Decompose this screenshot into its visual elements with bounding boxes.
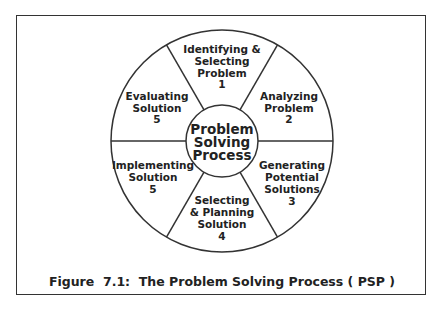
- segment-label-line: Potential: [265, 171, 319, 183]
- segment-number: 2: [285, 113, 292, 125]
- segment-number: 5: [149, 183, 156, 195]
- process-wheel-diagram: Problem Solving Process Identifying & Se…: [0, 0, 444, 313]
- center-label-line: Process: [192, 147, 251, 163]
- segment-label-line: Solution: [128, 171, 177, 183]
- segment-number: 4: [218, 230, 225, 242]
- segment-implementing: Implementing Solution 5: [112, 159, 194, 195]
- figure-caption: Figure 7.1: The Problem Solving Process …: [49, 274, 395, 289]
- segment-generating: Generating Potential Solutions 3: [259, 159, 325, 207]
- segment-identifying: Identifying & Selecting Problem 1: [183, 43, 260, 90]
- segment-label-line: Evaluating: [126, 90, 189, 102]
- segment-label-line: Selecting: [194, 194, 249, 206]
- center-label: Problem Solving Process: [190, 121, 253, 163]
- segment-selecting: Selecting & Planning Solution 4: [190, 194, 255, 242]
- segment-label-line: Generating: [259, 159, 325, 171]
- segment-number: 1: [218, 78, 225, 90]
- segment-label-line: Solutions: [264, 183, 319, 195]
- segment-number: 5: [153, 113, 160, 125]
- segment-label-line: Identifying &: [183, 43, 260, 55]
- segment-label-line: Selecting: [194, 55, 249, 67]
- segment-number: 3: [288, 195, 295, 207]
- segment-evaluating: Evaluating Solution 5: [126, 90, 189, 125]
- segment-label-line: & Planning: [190, 206, 255, 218]
- segment-label-line: Analyzing: [260, 90, 318, 102]
- segment-analyzing: Analyzing Problem 2: [260, 90, 318, 125]
- segment-label-line: Solution: [197, 218, 246, 230]
- segment-label-line: Implementing: [112, 159, 194, 171]
